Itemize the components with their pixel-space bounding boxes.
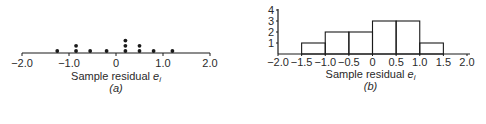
x-tick-label-a: −2.0 bbox=[11, 57, 33, 69]
data-point bbox=[124, 49, 128, 53]
y-ticks-b: 1234 bbox=[268, 4, 278, 49]
data-point bbox=[105, 49, 109, 53]
data-point bbox=[74, 44, 78, 48]
y-tick-label-b: 4 bbox=[268, 4, 274, 16]
histogram-bar bbox=[302, 43, 326, 54]
x-tick-label-b: 0 bbox=[369, 56, 375, 68]
x-tick-label-b: 1.0 bbox=[412, 56, 427, 68]
y-tick-label-b: 1 bbox=[268, 37, 274, 49]
histogram-bars-b bbox=[302, 21, 444, 54]
x-tick-label-a: 0 bbox=[113, 57, 119, 69]
x-tick-label-b: 2.0 bbox=[459, 56, 474, 68]
histogram-panel-b: −2.0−1.5−1.0−0.500.51.01.52.0 1234 Sampl… bbox=[267, 4, 475, 92]
x-tick-label-b: −2.0 bbox=[267, 56, 289, 68]
caption-a: (a) bbox=[109, 82, 123, 94]
data-point bbox=[74, 49, 78, 53]
x-tick-label-b: −1.5 bbox=[291, 56, 313, 68]
x-tick-label-b: −0.5 bbox=[338, 56, 360, 68]
data-points-a bbox=[55, 39, 174, 53]
dot-plot-panel-a: −2.0−1.001.02.0 Sample residual ei (a) bbox=[11, 39, 218, 94]
data-point bbox=[124, 39, 128, 43]
y-tick-label-b: 2 bbox=[268, 26, 274, 38]
x-tick-label-b: −1.0 bbox=[314, 56, 336, 68]
data-point bbox=[88, 49, 92, 53]
x-tick-label-b: 0.5 bbox=[388, 56, 403, 68]
y-tick-label-b: 3 bbox=[268, 15, 274, 27]
caption-b: (b) bbox=[364, 80, 378, 92]
data-point bbox=[152, 49, 156, 53]
histogram-bar bbox=[349, 32, 373, 54]
data-point bbox=[171, 49, 175, 53]
x-tick-label-a: −1.0 bbox=[58, 57, 80, 69]
histogram-bar bbox=[420, 43, 444, 54]
x-ticks-b: −2.0−1.5−1.0−0.500.51.01.52.0 bbox=[267, 54, 475, 68]
data-point bbox=[138, 49, 142, 53]
data-point bbox=[124, 44, 128, 48]
figure: −2.0−1.001.02.0 Sample residual ei (a) −… bbox=[0, 0, 486, 124]
x-tick-label-a: 1.0 bbox=[155, 57, 170, 69]
data-point bbox=[55, 49, 59, 53]
x-tick-label-b: 1.5 bbox=[436, 56, 451, 68]
x-ticks-a: −2.0−1.001.02.0 bbox=[11, 53, 218, 69]
x-tick-label-a: 2.0 bbox=[202, 57, 217, 69]
histogram-bar bbox=[396, 21, 420, 54]
data-point bbox=[138, 44, 142, 48]
histogram-bar bbox=[373, 21, 397, 54]
histogram-bar bbox=[325, 32, 349, 54]
